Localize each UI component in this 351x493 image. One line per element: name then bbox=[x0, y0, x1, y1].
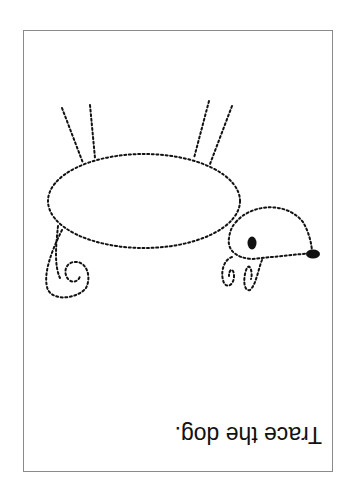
dog-body bbox=[48, 154, 240, 248]
dog-leg-front-inner bbox=[194, 101, 209, 158]
dog-tail bbox=[46, 230, 88, 297]
dog-leg-front-outer bbox=[210, 106, 232, 164]
dog-head bbox=[229, 207, 312, 259]
dog-eye bbox=[248, 237, 257, 250]
dog-nose bbox=[306, 250, 320, 259]
dog-ear-left bbox=[222, 257, 234, 286]
dog-leg-back-inner bbox=[90, 105, 95, 158]
dog-ear-right bbox=[244, 260, 262, 290]
instruction-text: Trace the dog. bbox=[152, 420, 322, 450]
dog-leg-back-outer bbox=[62, 108, 83, 163]
